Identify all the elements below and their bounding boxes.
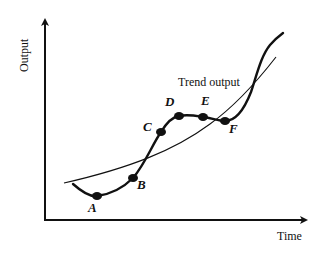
point-e-label: E [200, 93, 210, 108]
point-b-label: B [136, 177, 146, 192]
point-f: F [220, 117, 238, 136]
x-axis-label: Time [277, 229, 302, 243]
point-b: B [128, 174, 146, 192]
diagram-canvas: Output Time Trend output A B C D E [0, 0, 325, 254]
point-d: D [164, 94, 184, 120]
point-a-label: A [87, 200, 97, 215]
point-d-label: D [164, 94, 175, 109]
y-axis-label: Output [17, 38, 31, 72]
point-c-label: C [143, 119, 152, 134]
business-cycle-diagram: Output Time Trend output A B C D E [0, 0, 325, 254]
point-f-label: F [228, 121, 238, 136]
trend-label: Trend output [178, 75, 241, 89]
